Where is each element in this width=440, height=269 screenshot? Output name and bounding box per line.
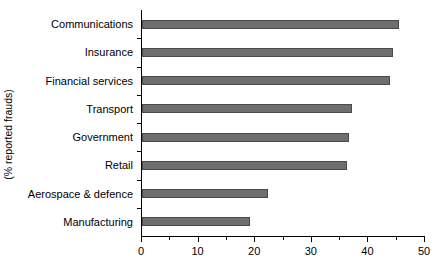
x-axis-minor-tick <box>226 237 227 240</box>
x-axis-tick <box>424 237 425 242</box>
y-axis-tick-label: Manufacturing <box>63 215 133 229</box>
x-axis-tick-label: 0 <box>138 245 144 257</box>
x-axis-tick-label: 30 <box>305 245 317 257</box>
bar <box>142 161 347 170</box>
y-axis-tick <box>137 123 141 124</box>
bar <box>142 48 393 57</box>
x-axis-tick <box>311 237 312 242</box>
x-axis-minor-tick <box>396 237 397 240</box>
x-axis-tick <box>367 237 368 242</box>
y-axis-tick-label: Financial services <box>46 74 133 88</box>
x-axis-tick-label: 10 <box>191 245 203 257</box>
bar <box>142 133 349 142</box>
plot-area: 01020304050 <box>141 10 425 236</box>
y-axis-tick <box>137 95 141 96</box>
x-axis-tick-label: 20 <box>248 245 260 257</box>
y-axis-tick <box>137 151 141 152</box>
y-axis-tick <box>137 67 141 68</box>
bar <box>142 189 268 198</box>
y-axis-title: (% reported frauds) <box>0 0 16 269</box>
y-axis-tick-label: Insurance <box>85 45 133 59</box>
y-axis-tick-label: Communications <box>51 17 133 31</box>
x-axis-minor-tick <box>283 237 284 240</box>
bar <box>142 217 250 226</box>
bar-chart: (% reported frauds) CommunicationsInsura… <box>0 0 440 269</box>
y-axis-tick <box>137 208 141 209</box>
x-axis-tick-label: 50 <box>418 245 430 257</box>
x-axis-tick <box>254 237 255 242</box>
x-axis-tick <box>198 237 199 242</box>
y-axis-line <box>141 10 142 236</box>
x-axis-minor-tick <box>169 237 170 240</box>
bar <box>142 104 352 113</box>
y-axis-tick <box>137 180 141 181</box>
y-axis-tick-label: Government <box>72 130 133 144</box>
x-axis-minor-tick <box>339 237 340 240</box>
y-axis-tick-label: Retail <box>105 158 133 172</box>
x-axis-tick-label: 40 <box>361 245 373 257</box>
x-axis-tick <box>141 237 142 242</box>
y-axis-tick-label: Aerospace & defence <box>28 187 133 201</box>
y-axis-tick-labels: CommunicationsInsuranceFinancial service… <box>18 10 137 236</box>
y-axis-tick <box>137 38 141 39</box>
bar <box>142 76 390 85</box>
y-axis-tick-label: Transport <box>86 102 133 116</box>
bar <box>142 20 399 29</box>
